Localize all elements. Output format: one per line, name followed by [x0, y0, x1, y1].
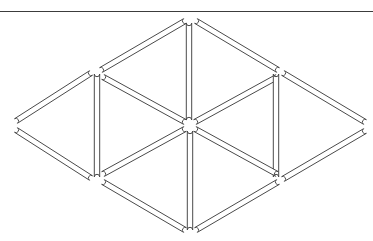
center-lower-vertical — [187, 131, 192, 230]
lower-right-inner-diagonal — [194, 127, 279, 177]
center-upper-vertical — [186, 23, 191, 120]
left-triangle-upper-edge — [15, 71, 93, 124]
matchstick-figure — [0, 0, 373, 241]
upper-right-diagonal-top — [195, 19, 280, 73]
figure-canvas — [0, 0, 373, 241]
right-triangle-upper-edge — [282, 71, 367, 125]
matchstick-group — [15, 19, 367, 233]
right-triangle-lower-edge — [282, 129, 367, 182]
lower-left-inner-diagonal — [102, 127, 187, 177]
lower-right-diagonal-bottom — [195, 180, 280, 233]
upper-right-inner-diagonal — [194, 75, 279, 125]
left-vertical — [94, 74, 99, 177]
right-vertical — [273, 74, 278, 177]
left-triangle-lower-edge — [15, 128, 93, 181]
lower-left-diagonal-bottom — [102, 180, 187, 233]
upper-left-inner-diagonal — [102, 75, 187, 125]
upper-left-diagonal-top — [100, 19, 187, 73]
